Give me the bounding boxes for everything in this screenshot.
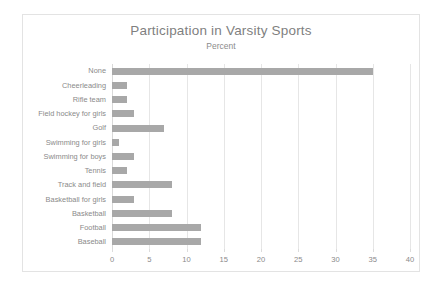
category-label: Basketball for girls <box>25 192 110 206</box>
tick-mark <box>149 249 150 252</box>
bar[interactable] <box>112 110 134 117</box>
bar[interactable] <box>112 181 172 188</box>
bar-row <box>112 206 410 220</box>
bar-row <box>112 221 410 235</box>
bar[interactable] <box>112 238 201 245</box>
bar-row <box>112 149 410 163</box>
bar-row <box>112 178 410 192</box>
bar-row <box>112 107 410 121</box>
category-label: Rifle team <box>25 92 110 106</box>
category-label: Track and field <box>25 178 110 192</box>
bar[interactable] <box>112 224 201 231</box>
bar[interactable] <box>112 96 127 103</box>
tick-mark <box>373 249 374 252</box>
tick-mark <box>410 249 411 252</box>
category-label: Swimming for boys <box>25 149 110 163</box>
bar-series <box>112 64 410 249</box>
tick-mark <box>187 249 188 252</box>
x-tick-label: 25 <box>294 255 302 264</box>
x-tick-label: 0 <box>110 255 114 264</box>
bar-row <box>112 192 410 206</box>
category-label: Basketball <box>25 206 110 220</box>
chart-container: Participation in Varsity Sports Percent … <box>22 14 420 272</box>
x-tick-label: 30 <box>331 255 339 264</box>
plot-wrapper: NoneCheerleadingRifle teamField hockey f… <box>23 15 419 271</box>
category-axis: NoneCheerleadingRifle teamField hockey f… <box>25 64 110 249</box>
tick-mark <box>112 249 113 252</box>
x-tick-label: 40 <box>406 255 414 264</box>
bar-row <box>112 135 410 149</box>
category-label: Field hockey for girls <box>25 107 110 121</box>
x-tick-label: 10 <box>182 255 190 264</box>
tick-mark <box>336 249 337 252</box>
bar[interactable] <box>112 210 172 217</box>
plot-area <box>112 64 410 249</box>
bar[interactable] <box>112 68 373 75</box>
bar-row <box>112 64 410 78</box>
category-label: Cheerleading <box>25 78 110 92</box>
gridline <box>410 64 411 249</box>
x-tick-label: 35 <box>369 255 377 264</box>
bar[interactable] <box>112 125 164 132</box>
bar[interactable] <box>112 153 134 160</box>
tick-mark <box>224 249 225 252</box>
category-label: Swimming for girls <box>25 135 110 149</box>
bar-row <box>112 121 410 135</box>
bar-row <box>112 235 410 249</box>
x-tick-label: 5 <box>147 255 151 264</box>
x-tick-label: 20 <box>257 255 265 264</box>
tick-mark <box>261 249 262 252</box>
category-label: None <box>25 64 110 78</box>
category-label: Tennis <box>25 164 110 178</box>
bar[interactable] <box>112 82 127 89</box>
category-label: Football <box>25 221 110 235</box>
bar[interactable] <box>112 196 134 203</box>
category-label: Baseball <box>25 235 110 249</box>
value-axis: 0510152025303540 <box>112 249 410 271</box>
category-label: Golf <box>25 121 110 135</box>
bar-row <box>112 92 410 106</box>
tick-mark <box>298 249 299 252</box>
x-tick-label: 15 <box>220 255 228 264</box>
bar[interactable] <box>112 167 127 174</box>
bar-row <box>112 78 410 92</box>
bar-row <box>112 164 410 178</box>
bar[interactable] <box>112 139 119 146</box>
